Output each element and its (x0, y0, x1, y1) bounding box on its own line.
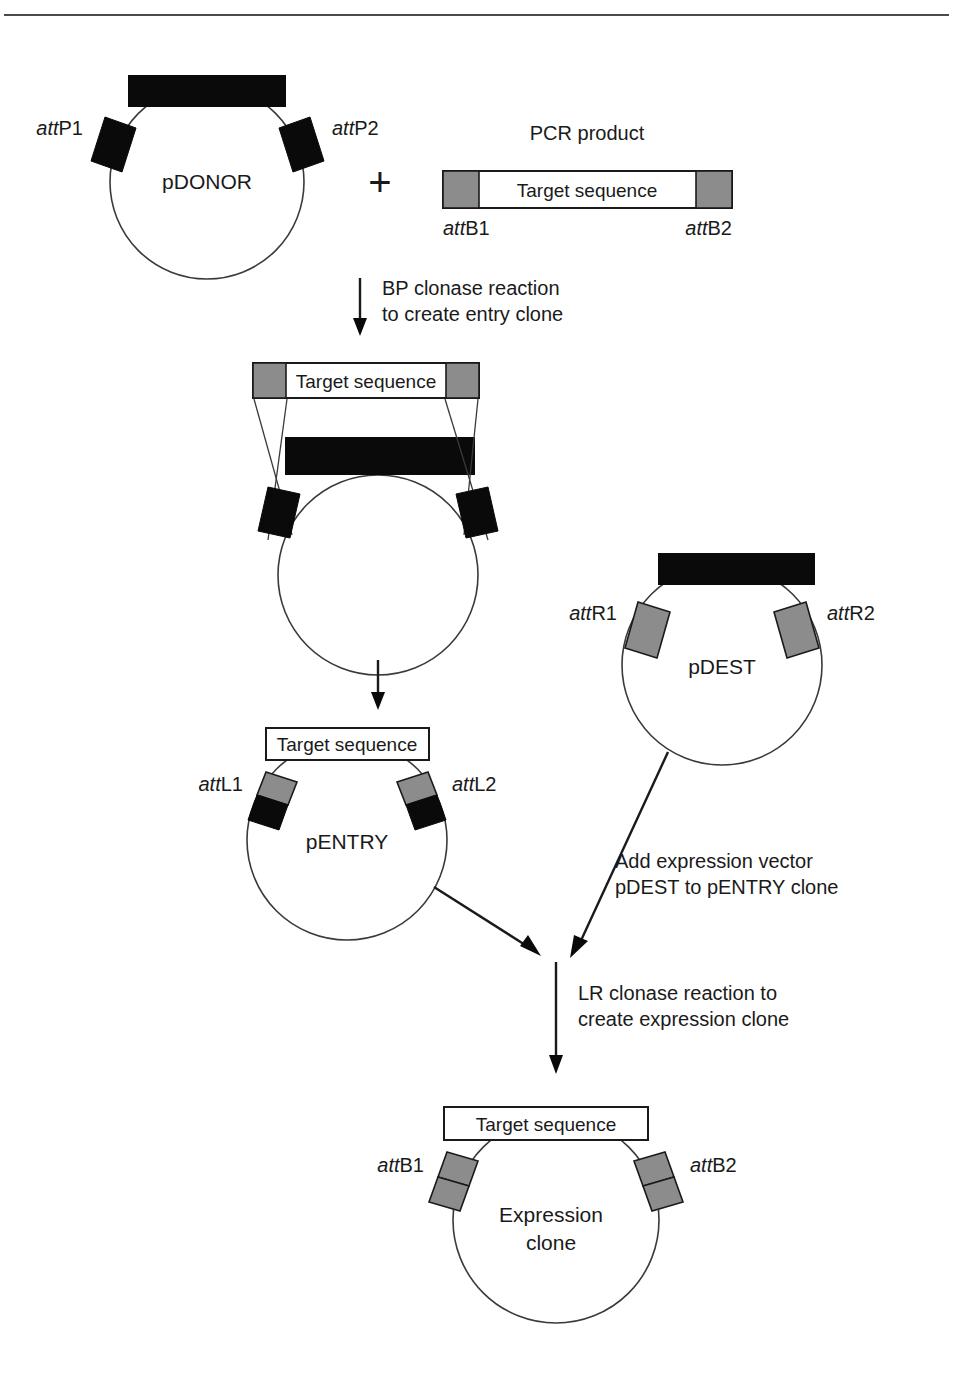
pdest-attR1-label: attR1 (569, 602, 617, 624)
intermediate-attB1-end (253, 363, 286, 398)
pdonor-attP1-block (91, 117, 136, 172)
intermediate-attP1-block (258, 487, 300, 538)
bp-clonase-step: BP clonase reaction to create entry clon… (353, 277, 563, 336)
pdest-name-label: pDEST (688, 655, 756, 678)
pdest-plasmid: attR1 attR2 pDEST (569, 553, 875, 765)
pentry-target-sequence-label: Target sequence (277, 734, 418, 755)
expression-clone-attB2-label: attB2 (690, 1154, 737, 1176)
pcr-attB2-label: attB2 (685, 217, 732, 239)
pdest-attR2-label: attR2 (827, 602, 875, 624)
pdonor-attP2-label: attP2 (332, 117, 379, 139)
bp-clonase-label-line2: to create entry clone (382, 303, 563, 325)
pcr-product-title: PCR product (530, 122, 645, 144)
add-expression-vector-line1: Add expression vector (615, 850, 813, 872)
lr-clonase-label-line1: LR clonase reaction to (578, 982, 777, 1004)
pdonor-marker-bar (128, 75, 286, 107)
pentry-name-label: pENTRY (306, 830, 388, 853)
intermediate-target-sequence-label: Target sequence (296, 371, 437, 392)
pentry-attL1-block (248, 772, 297, 830)
pdonor-plasmid: attP1 attP2 pDONOR (36, 75, 378, 279)
intermediate-marker-bar (285, 437, 475, 475)
pdonor-attP1-label: attP1 (36, 117, 83, 139)
bp-clonase-label-line1: BP clonase reaction (382, 277, 560, 299)
pdonor-attP2-block (279, 117, 324, 172)
entry-converge-arrow-shaft (434, 887, 530, 948)
pcr-product: PCR product Target sequence attB1 attB2 (443, 122, 732, 239)
pcr-attB2-end (696, 171, 732, 208)
entry-converge-arrow-head (520, 935, 541, 956)
intermediate-attP2-block (456, 487, 498, 538)
expression-clone-attB1-block (429, 1152, 478, 1211)
intermediate-attB2-end (446, 363, 479, 398)
plus-sign: + (368, 160, 391, 204)
figure-canvas: attP1 attP2 pDONOR + PCR product Target … (0, 0, 953, 1389)
expression-clone-name-line1: Expression (499, 1203, 603, 1226)
pcr-attB1-label: attB1 (443, 217, 490, 239)
pentry-attL2-block (397, 772, 446, 830)
expression-clone-attB2-block (634, 1152, 683, 1211)
expression-clone-name-line2: clone (526, 1231, 576, 1254)
pdest-attR2-block (774, 602, 819, 658)
pdest-attR1-block (625, 602, 670, 658)
expression-clone-target-sequence-label: Target sequence (476, 1114, 617, 1135)
add-expression-vector-line2: pDEST to pENTRY clone (615, 876, 838, 898)
lr-clonase-arrow-head (549, 1055, 563, 1074)
lr-clonase-step: LR clonase reaction to create expression… (549, 962, 789, 1074)
dest-converge-arrow-head (570, 935, 588, 958)
pcr-attB1-end (443, 171, 479, 208)
pentry-attL2-label: attL2 (452, 773, 497, 795)
intermediate-to-entry-arrow (371, 660, 385, 710)
intermediate-backbone-circle (278, 475, 478, 675)
expression-clone-plasmid: Target sequence attB1 attB2 Expression c… (377, 1107, 736, 1323)
pcr-target-sequence-label: Target sequence (517, 180, 658, 201)
lr-clonase-label-line2: create expression clone (578, 1008, 789, 1030)
pentry-plasmid: Target sequence attL1 attL2 pENTRY (199, 728, 497, 940)
pentry-attL1-label: attL1 (199, 773, 244, 795)
pdonor-name-label: pDONOR (162, 170, 252, 193)
recombination-intermediate: Target sequence (253, 363, 498, 675)
pdest-marker-bar (658, 553, 815, 585)
bp-clonase-arrow-head (353, 318, 367, 336)
expression-clone-attB1-label: attB1 (377, 1154, 424, 1176)
entry-arrow-head (371, 692, 385, 710)
